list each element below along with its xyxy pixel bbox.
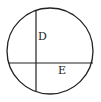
circle-diagram: D E: [0, 0, 101, 102]
label-e: E: [58, 64, 66, 77]
label-d: D: [38, 30, 47, 43]
circle: [7, 8, 93, 94]
